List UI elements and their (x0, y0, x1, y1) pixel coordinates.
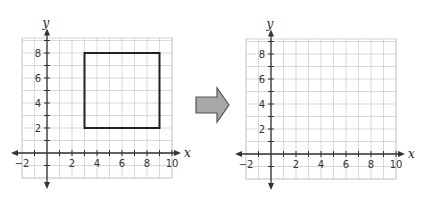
y-tick-label: 4 (259, 99, 265, 110)
x-tick-label: 6 (343, 159, 349, 170)
left-y-axis-label: y (42, 16, 50, 30)
arrowhead-down-icon (268, 183, 274, 190)
x-tick-label: 6 (119, 158, 125, 169)
x-tick-label: 4 (94, 158, 100, 169)
right-x-axis-label: x (408, 147, 415, 161)
x-tick-label: 10 (166, 158, 179, 169)
x-tick-label: 2 (69, 158, 75, 169)
x-tick-label: 8 (368, 159, 374, 170)
arrowhead-up-icon (268, 30, 274, 37)
right-arrow-icon (196, 88, 229, 122)
arrowhead-right-icon (174, 150, 181, 156)
right-coordinate-plane: −22468102468xy (235, 17, 415, 191)
x-tick-label: 8 (144, 158, 150, 169)
y-tick-label: 6 (35, 73, 41, 84)
arrowhead-down-icon (44, 182, 50, 189)
arrowhead-right-icon (398, 151, 405, 157)
x-tick-label: 4 (318, 159, 324, 170)
y-tick-label: 8 (259, 49, 265, 60)
x-tick-label: −2 (15, 158, 30, 169)
left-coordinate-plane: −22468102468xy (11, 16, 191, 190)
x-tick-label: −2 (239, 159, 254, 170)
right-y-axis-label: y (266, 17, 274, 31)
figure-canvas: −22468102468xy −22468102468xy (0, 0, 427, 201)
arrowhead-left-icon (11, 150, 18, 156)
y-tick-label: 4 (35, 98, 41, 109)
right-grid (246, 39, 396, 179)
y-tick-label: 2 (259, 124, 265, 135)
y-tick-label: 6 (259, 74, 265, 85)
y-tick-label: 8 (35, 48, 41, 59)
x-tick-label: 10 (390, 159, 403, 170)
arrowhead-up-icon (44, 29, 50, 36)
y-tick-label: 2 (35, 123, 41, 134)
arrowhead-left-icon (235, 151, 242, 157)
left-x-axis-label: x (184, 146, 191, 160)
x-tick-label: 2 (293, 159, 299, 170)
left-grid (22, 38, 172, 178)
